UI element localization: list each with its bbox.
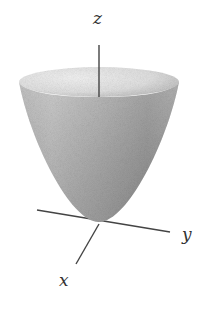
paraboloid-figure: z y x [0, 0, 207, 309]
x-axis-label: x [59, 272, 69, 289]
x-axis-line [76, 224, 99, 264]
z-axis-label: z [93, 10, 102, 27]
paraboloid-diagram [0, 0, 207, 309]
y-axis-label: y [182, 226, 192, 243]
